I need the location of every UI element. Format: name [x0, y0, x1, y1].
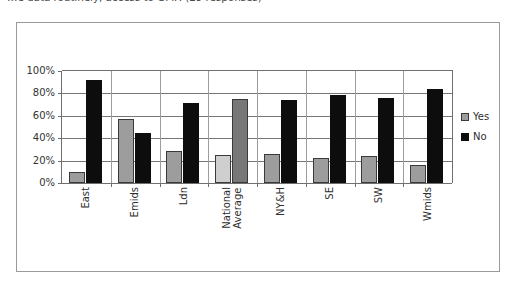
x-axis-label: Wmids — [402, 187, 451, 271]
y-axis-tick-label: 0% — [39, 178, 55, 188]
x-axis-label-text: Ldn — [177, 187, 188, 205]
x-axis-label-text: East — [80, 187, 91, 209]
y-axis: 0%20%40%60%80%100% — [17, 64, 59, 178]
bar-group — [207, 71, 256, 183]
bar-yes — [118, 119, 134, 183]
bar-yes — [313, 158, 329, 183]
x-axis-label: Ldn — [159, 187, 208, 271]
bar-yes — [264, 154, 280, 183]
legend-swatch-icon — [461, 113, 469, 121]
y-axis-tick — [58, 183, 62, 184]
bar-group — [256, 71, 305, 183]
bar-yes — [410, 165, 426, 183]
bar-group — [159, 71, 208, 183]
bar-no — [232, 99, 248, 183]
x-axis-label: East — [61, 187, 110, 271]
x-axis-label: NY&H — [256, 187, 305, 271]
x-axis-label: NationalAverage — [207, 187, 256, 271]
x-axis-label-text: SE — [324, 187, 335, 200]
bar-no — [86, 80, 102, 183]
x-axis-label-text: Wmids — [421, 187, 432, 221]
bar-no — [281, 100, 297, 183]
y-axis-tick-label: 80% — [33, 88, 55, 98]
figure-caption-text: …e data routinely, access to GMP. (29 re… — [0, 0, 517, 4]
bar-no — [330, 95, 346, 183]
bar-group — [61, 71, 110, 183]
x-axis-label: SW — [354, 187, 403, 271]
bar-group — [402, 71, 451, 183]
bar-group — [110, 71, 159, 183]
y-axis-tick-label: 20% — [33, 156, 55, 166]
bar-yes — [69, 172, 85, 183]
bar-no — [183, 103, 199, 183]
bar-no — [427, 89, 443, 183]
y-axis-tick-label: 60% — [33, 111, 55, 121]
x-axis: EastEmidsLdnNationalAverageNY&HSESWWmids — [61, 187, 451, 271]
figure-caption: …e data routinely, access to GMP. (29 re… — [0, 0, 517, 5]
chart-frame: 0%20%40%60%80%100% EastEmidsLdnNationalA… — [16, 22, 500, 272]
x-axis-label-text: NY&H — [275, 187, 286, 216]
bars-layer — [61, 71, 451, 183]
chart-legend: YesNo — [461, 111, 501, 151]
x-axis-label-text: SW — [372, 187, 383, 203]
x-axis-label: Emids — [110, 187, 159, 271]
legend-label: Yes — [473, 111, 489, 122]
y-axis-tick-label: 100% — [26, 66, 55, 76]
bar-group — [354, 71, 403, 183]
bar-no — [135, 133, 151, 183]
legend-item-yes[interactable]: Yes — [461, 111, 501, 122]
x-axis-label: SE — [305, 187, 354, 271]
y-axis-tick-label: 40% — [33, 133, 55, 143]
legend-label: No — [473, 131, 487, 142]
x-axis-label-text: Emids — [129, 187, 140, 217]
bar-group — [305, 71, 354, 183]
x-axis-label-text: NationalAverage — [221, 187, 243, 229]
legend-swatch-icon — [461, 133, 469, 141]
bar-yes — [215, 155, 231, 183]
bar-yes — [361, 156, 377, 183]
chart-plot-wrapper: 0%20%40%60%80%100% EastEmidsLdnNationalA… — [17, 23, 501, 273]
legend-item-no[interactable]: No — [461, 131, 501, 142]
bar-yes — [166, 151, 182, 183]
bar-no — [378, 98, 394, 183]
